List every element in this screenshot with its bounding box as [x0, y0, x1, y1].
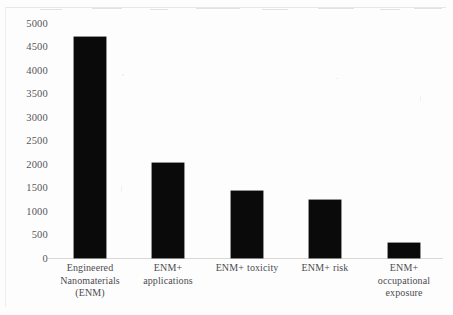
x-tick-label-line: (ENM)	[48, 287, 132, 300]
bar-enm-occupational-exposure	[388, 243, 420, 258]
x-tick-label-line: ENM+ risk	[288, 262, 362, 275]
bar-chart-figure: 5000 4500 4000 3500 3000 2500 2000 1500 …	[0, 0, 453, 315]
x-tick-label-line: Engineered	[48, 262, 132, 275]
x-tick-label-line: Nanomaterials	[48, 275, 132, 288]
x-tick-label-line: applications	[130, 275, 206, 288]
x-tick-label-enm-applications: ENM+ applications	[130, 262, 206, 287]
x-tick-label-line: ENM+ toxicity	[207, 262, 287, 275]
x-tick-label-line: occupational	[364, 275, 444, 288]
bar-enm-risk	[309, 200, 341, 259]
x-tick-label-engineered-nanomaterials-enm: Engineered Nanomaterials (ENM)	[48, 262, 132, 300]
x-tick-label-line: ENM+	[130, 262, 206, 275]
bar-engineered-nanomaterials-enm	[74, 37, 106, 258]
x-tick-label-line: ENM+	[364, 262, 444, 275]
x-axis: Engineered Nanomaterials (ENM) ENM+ appl…	[0, 262, 453, 315]
bar-enm-applications	[152, 163, 184, 258]
x-tick-label-line: exposure	[364, 287, 444, 300]
bar-enm-toxicity	[231, 191, 263, 258]
x-tick-label-enm-risk: ENM+ risk	[288, 262, 362, 275]
x-tick-label-enm-toxicity: ENM+ toxicity	[207, 262, 287, 275]
x-tick-label-enm-occupational-exposure: ENM+ occupational exposure	[364, 262, 444, 300]
